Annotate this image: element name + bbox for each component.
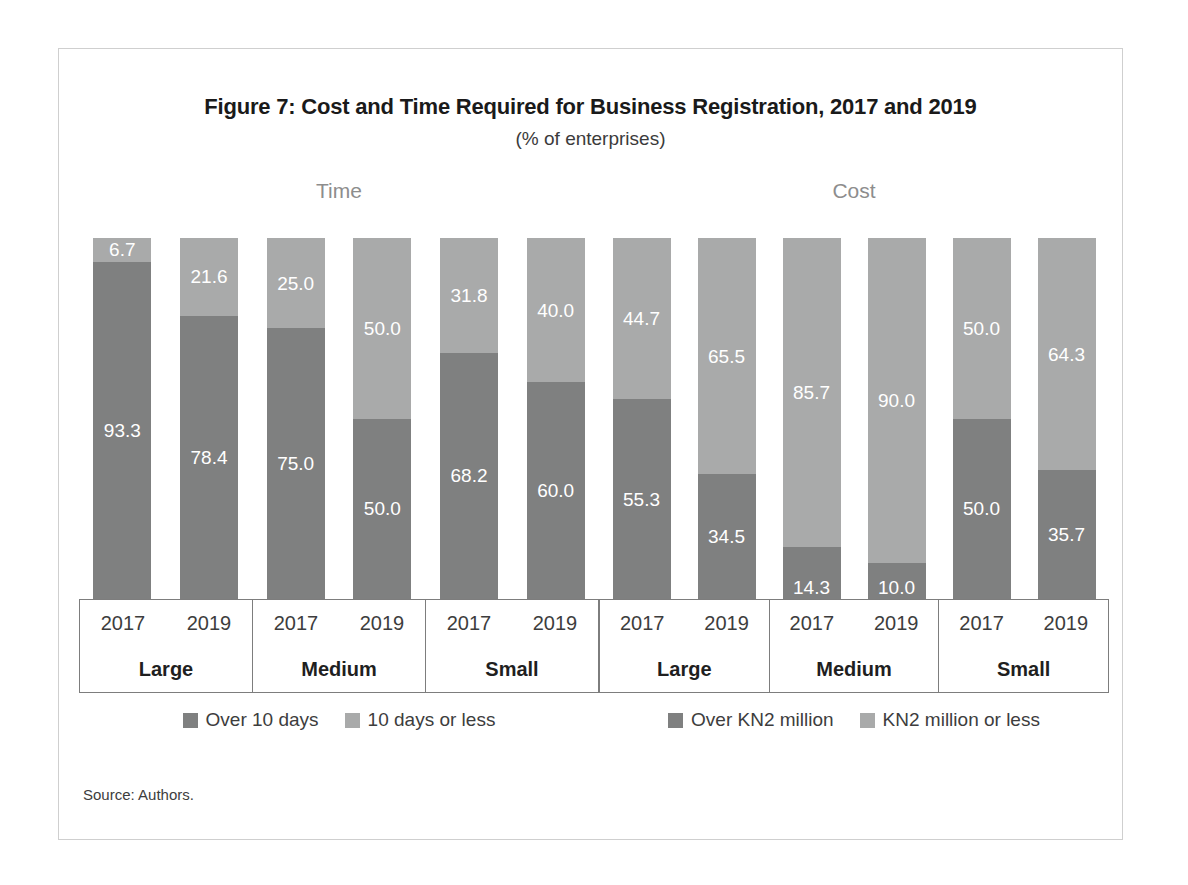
bar-segment-light: 85.7: [783, 238, 841, 547]
bar-segment-light: 50.0: [353, 238, 411, 419]
legend-swatch-icon: [860, 713, 875, 728]
figure-subtitle: (% of enterprises): [59, 128, 1122, 150]
axis-group-small: 20172019Small: [939, 600, 1108, 692]
bar-value-label: 78.4: [191, 448, 228, 467]
bar-value-label: 90.0: [878, 391, 915, 410]
bar-segment-dark: 68.2: [440, 353, 498, 599]
axis-year-row: 20172019: [426, 600, 598, 646]
bar-value-label: 55.3: [623, 490, 660, 509]
figure-title: Figure 7: Cost and Time Required for Bus…: [59, 94, 1122, 120]
bar-value-label: 25.0: [277, 274, 314, 293]
axis-year-row: 20172019: [770, 600, 939, 646]
axis-group-medium: 20172019Medium: [770, 600, 940, 692]
bar-time-small-2017: 31.868.2: [440, 238, 498, 599]
bar-segment-dark: 93.3: [93, 262, 151, 599]
axis-year-label: 2017: [426, 600, 512, 646]
legend-swatch-icon: [668, 713, 683, 728]
panel-title-cost: Cost: [599, 179, 1109, 203]
bar-segment-dark: 34.5: [698, 474, 756, 599]
bar-time-small-2019: 40.060.0: [527, 238, 585, 599]
bar-segment-dark: 14.3: [783, 547, 841, 599]
axis-group-large: 20172019Large: [80, 600, 253, 692]
panel-title-time: Time: [79, 179, 599, 203]
axis-table-time: 20172019Large20172019Medium20172019Small: [79, 599, 599, 693]
bar-segment-light: 6.7: [93, 238, 151, 262]
bar-segment-light: 65.5: [698, 238, 756, 474]
bar-cost-large-2017: 44.755.3: [613, 238, 671, 599]
plot-area-time: 6.793.321.678.425.075.050.050.031.868.24…: [79, 238, 599, 599]
bar-segment-dark: 50.0: [353, 419, 411, 600]
bar-value-label: 50.0: [963, 499, 1000, 518]
bar-value-label: 21.6: [191, 267, 228, 286]
axis-category-label: Small: [426, 646, 598, 692]
bar-value-label: 93.3: [104, 421, 141, 440]
axis-year-row: 20172019: [939, 600, 1108, 646]
bar-value-label: 68.2: [451, 466, 488, 485]
bar-segment-light: 50.0: [953, 238, 1011, 419]
bar-time-medium-2017: 25.075.0: [267, 238, 325, 599]
bar-value-label: 34.5: [708, 527, 745, 546]
bar-segment-light: 21.6: [180, 238, 238, 316]
bar-segment-dark: 50.0: [953, 419, 1011, 600]
axis-year-label: 2019: [339, 600, 425, 646]
bar-value-label: 40.0: [537, 301, 574, 320]
bar-segment-light: 25.0: [267, 238, 325, 328]
bar-segment-light: 31.8: [440, 238, 498, 353]
legend-label: KN2 million or less: [883, 709, 1040, 731]
axis-year-label: 2017: [600, 600, 684, 646]
legend-swatch-icon: [183, 713, 198, 728]
axis-category-label: Medium: [253, 646, 425, 692]
bar-segment-dark: 78.4: [180, 316, 238, 599]
axis-category-label: Large: [80, 646, 252, 692]
bar-value-label: 85.7: [793, 383, 830, 402]
axis-category-label: Medium: [770, 646, 939, 692]
legend-item[interactable]: Over 10 days: [183, 709, 319, 731]
bar-segment-dark: 35.7: [1038, 470, 1096, 599]
bar-cost-small-2019: 64.335.7: [1038, 238, 1096, 599]
legend-item[interactable]: KN2 million or less: [860, 709, 1040, 731]
bar-value-label: 14.3: [793, 578, 830, 597]
axis-table-cost: 20172019Large20172019Medium20172019Small: [599, 599, 1109, 693]
bar-value-label: 75.0: [277, 454, 314, 473]
axis-year-row: 20172019: [80, 600, 252, 646]
axis-year-label: 2019: [1024, 600, 1108, 646]
axis-category-label: Large: [600, 646, 769, 692]
bar-segment-light: 64.3: [1038, 238, 1096, 470]
bar-time-large-2019: 21.678.4: [180, 238, 238, 599]
axis-category-label: Small: [939, 646, 1108, 692]
legend-item[interactable]: Over KN2 million: [668, 709, 834, 731]
figure-frame: Figure 7: Cost and Time Required for Bus…: [58, 48, 1123, 840]
legend-swatch-icon: [345, 713, 360, 728]
legend-cost: Over KN2 millionKN2 million or less: [599, 709, 1109, 731]
bar-segment-light: 40.0: [527, 238, 585, 382]
bar-value-label: 50.0: [364, 319, 401, 338]
legend-item[interactable]: 10 days or less: [345, 709, 496, 731]
legend-time: Over 10 days10 days or less: [79, 709, 599, 731]
legend-label: Over 10 days: [206, 709, 319, 731]
axis-year-label: 2017: [80, 600, 166, 646]
axis-group-medium: 20172019Medium: [253, 600, 426, 692]
bar-value-label: 65.5: [708, 347, 745, 366]
bar-value-label: 10.0: [878, 578, 915, 597]
bar-value-label: 60.0: [537, 481, 574, 500]
bar-segment-dark: 55.3: [613, 399, 671, 599]
bar-value-label: 6.7: [109, 240, 135, 259]
bar-segment-light: 90.0: [868, 238, 926, 563]
legend-label: Over KN2 million: [691, 709, 834, 731]
source-note: Source: Authors.: [83, 786, 194, 803]
bar-value-label: 44.7: [623, 309, 660, 328]
axis-year-row: 20172019: [253, 600, 425, 646]
axis-year-label: 2019: [166, 600, 252, 646]
axis-group-small: 20172019Small: [426, 600, 598, 692]
bar-cost-small-2017: 50.050.0: [953, 238, 1011, 599]
bar-value-label: 50.0: [963, 319, 1000, 338]
bar-cost-medium-2019: 90.010.0: [868, 238, 926, 599]
bar-segment-dark: 10.0: [868, 563, 926, 599]
bar-time-large-2017: 6.793.3: [93, 238, 151, 599]
bar-value-label: 64.3: [1048, 345, 1085, 364]
legend-label: 10 days or less: [368, 709, 496, 731]
bar-segment-dark: 75.0: [267, 328, 325, 599]
axis-year-row: 20172019: [600, 600, 769, 646]
axis-year-label: 2017: [770, 600, 854, 646]
bar-cost-large-2019: 65.534.5: [698, 238, 756, 599]
